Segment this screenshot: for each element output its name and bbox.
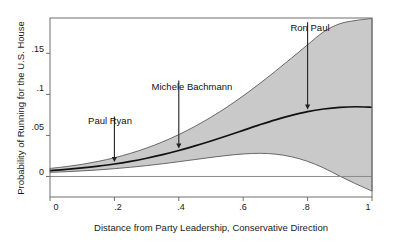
y-tick-label-01: .1 (36, 83, 44, 93)
x-tick-label-06: .6 (239, 202, 247, 212)
y-tick-label-0: 0 (39, 167, 44, 177)
y-tick-label-015: .15 (31, 44, 44, 54)
x-axis-ticks (50, 197, 372, 201)
chart-figure: 0 .05 .1 .15 0 .2 .4 .6 .8 1 Probability… (0, 0, 403, 243)
x-tick-label-08: .8 (302, 202, 310, 212)
x-tick-label-02: .2 (114, 202, 122, 212)
annotation-label-paul-ryan: Paul Ryan (88, 115, 132, 126)
y-tick-label-005: .05 (31, 122, 44, 132)
x-axis-title: Distance from Party Leadership, Conserva… (94, 222, 328, 233)
annotation-label-michele-bachmann: Michele Bachmann (152, 81, 233, 92)
y-axis-title: Probability of Running for the U.S. Hous… (15, 21, 26, 195)
x-tick-label-1: 1 (365, 202, 370, 212)
y-axis-ticks (46, 53, 50, 176)
x-tick-label-04: .4 (177, 202, 185, 212)
x-tick-label-0: 0 (53, 202, 58, 212)
annotation-label-ron-paul: Ron Paul (290, 22, 329, 33)
probability-of-running-chart: 0 .05 .1 .15 0 .2 .4 .6 .8 1 Probability… (0, 0, 403, 243)
